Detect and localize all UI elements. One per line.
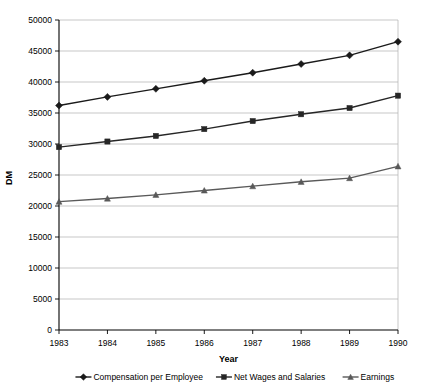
x-tick-label: 1985 [146,338,165,348]
y-axis-tick-marks [55,20,59,330]
y-tick-label: 30000 [28,139,52,149]
x-axis-title: Year [219,354,239,364]
diamond-marker-icon [298,61,305,68]
diamond-marker-icon [104,93,111,100]
diamond-marker-icon [80,374,87,381]
square-marker-icon [56,145,61,150]
y-tick-label: 15000 [28,232,52,242]
line-chart: 0500010000150002000025000300003500040000… [0,0,425,391]
gridlines [59,20,398,330]
y-tick-label: 35000 [28,108,52,118]
series-1 [56,38,402,109]
x-tick-label: 1987 [243,338,262,348]
square-marker-icon [153,133,158,138]
legend-label: Compensation per Employee [93,372,203,382]
square-marker-icon [250,118,255,123]
y-tick-label: 40000 [28,77,52,87]
chart-legend: Compensation per EmployeeNet Wages and S… [75,372,394,382]
legend-item-1[interactable]: Compensation per Employee [75,372,203,382]
y-axis-tick-labels: 0500010000150002000025000300003500040000… [28,15,52,335]
y-tick-label: 10000 [28,263,52,273]
series-2 [56,93,400,150]
x-tick-label: 1984 [98,338,117,348]
y-tick-label: 25000 [28,170,52,180]
legend-label: Net Wages and Salaries [234,372,325,382]
y-tick-label: 20000 [28,201,52,211]
series-3 [56,163,401,204]
diamond-marker-icon [346,52,353,59]
x-tick-label: 1983 [50,338,69,348]
diamond-marker-icon [152,85,159,92]
y-tick-label: 50000 [28,15,52,25]
square-marker-icon [202,127,207,132]
square-marker-icon [105,139,110,144]
chart-canvas: 0500010000150002000025000300003500040000… [0,0,425,391]
square-marker-icon [222,375,227,380]
x-tick-label: 1988 [292,338,311,348]
x-tick-label: 1989 [340,338,359,348]
x-tick-label: 1986 [195,338,214,348]
y-axis-title: DM [4,171,14,185]
square-marker-icon [299,112,304,117]
x-axis-tick-marks [59,330,398,334]
x-axis-tick-labels: 19831984198519861987198819891990 [50,338,408,348]
diamond-marker-icon [395,38,402,45]
square-marker-icon [347,105,352,110]
data-series [56,38,402,204]
legend-item-3[interactable]: Earnings [343,372,395,382]
legend-item-2[interactable]: Net Wages and Salaries [216,372,325,382]
diamond-marker-icon [249,69,256,76]
diamond-marker-icon [201,77,208,84]
y-tick-label: 0 [47,325,52,335]
y-tick-label: 5000 [33,294,52,304]
square-marker-icon [395,93,400,98]
legend-label: Earnings [361,372,395,382]
series-line [59,166,398,201]
diamond-marker-icon [56,102,63,109]
y-tick-label: 45000 [28,46,52,56]
x-tick-label: 1990 [389,338,408,348]
